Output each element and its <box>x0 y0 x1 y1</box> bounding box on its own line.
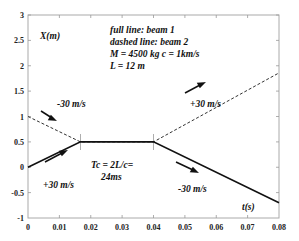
y-axis-label: X(m) <box>39 31 60 42</box>
x-tick-label: 0.05 <box>178 223 192 232</box>
y-tick-label: 2 <box>20 62 24 71</box>
contact-time-label: Tc = 2L/c= <box>91 160 133 170</box>
x-tick-label: 0.02 <box>84 223 98 232</box>
x-tick-label: 0.07 <box>241 223 255 232</box>
x-tick-label: 0 <box>26 223 30 232</box>
legend-line-2: dashed line: beam 2 <box>110 37 189 47</box>
x-tick-label: 0.03 <box>115 223 129 232</box>
y-tick-label: 1 <box>20 113 24 122</box>
x-tick-label: 0.01 <box>52 223 66 232</box>
x-tick-label: 0.06 <box>209 223 223 232</box>
velocity-label-beam2-before: -30 m/s <box>57 99 86 109</box>
y-tick-label: -1 <box>17 214 24 223</box>
y-tick-label: 1.5 <box>14 87 24 96</box>
contact-time-value: 24ms <box>100 172 122 182</box>
y-tick-label: 0 <box>20 163 24 172</box>
legend-line-3: M = 4500 kg c = 1km/s <box>109 49 200 59</box>
y-tick-label: 3 <box>20 11 24 20</box>
legend-line-1: full line: beam 1 <box>110 25 175 35</box>
x-tick-label: 0.04 <box>147 223 161 232</box>
x-axis-label: t(s) <box>242 202 255 213</box>
y-tick-label: -0.5 <box>11 189 24 198</box>
y-tick-label: 2.5 <box>14 36 24 45</box>
chart-canvas: 3 2.5 2 1.5 1 0.5 0 -0.5 -1 0 0.01 0.02 … <box>0 0 299 241</box>
y-tick-label: 0.5 <box>14 138 24 147</box>
velocity-label-beam1-after: -30 m/s <box>178 184 207 194</box>
legend-line-4: L = 12 m <box>109 61 145 71</box>
x-tick-label: 0.08 <box>272 223 286 232</box>
velocity-label-beam1-before: +30 m/s <box>43 180 74 190</box>
velocity-label-beam2-after: +30 m/s <box>190 99 221 109</box>
